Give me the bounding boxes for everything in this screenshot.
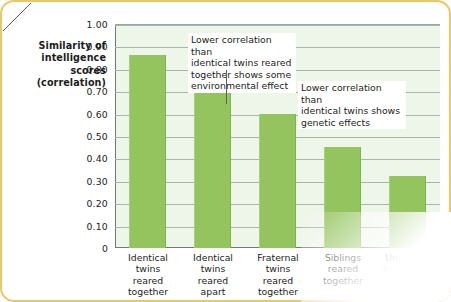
bar	[324, 147, 361, 248]
category-label-line: together	[113, 286, 183, 297]
y-axis-tick-label: 0.20	[68, 198, 108, 209]
x-axis-category-label: Siblingsrearedtogether	[308, 252, 378, 286]
category-label-line: together	[243, 286, 313, 297]
category-label-line: reared	[373, 275, 443, 286]
category-label-line: reared	[308, 263, 378, 274]
bar	[129, 55, 166, 248]
annotation-line: environmental effect	[191, 80, 293, 92]
x-axis-category-label: Unrelatedindividualsrearedtogether	[373, 252, 443, 297]
category-label-line: Fraternal	[243, 252, 313, 263]
y-axis-tick-label: 0.40	[68, 153, 108, 164]
bar	[194, 87, 231, 248]
y-axis-tick-label: 0.10	[68, 220, 108, 231]
annotation-line: identical twins reared	[191, 57, 293, 69]
annotation-line: Lower correlation than	[191, 34, 293, 57]
annotation-leader-line-1	[226, 70, 227, 104]
annotation-genetic-effects: Lower correlation thanidentical twins sh…	[298, 81, 406, 129]
x-axis-category-label: Identicaltwinsrearedtogether	[113, 252, 183, 297]
category-label-line: reared	[113, 275, 183, 286]
gridline	[115, 25, 440, 26]
category-label-line: reared	[243, 275, 313, 286]
category-label-line: Identical	[113, 252, 183, 263]
category-label-line: individuals	[373, 263, 443, 274]
annotation-line: Lower correlation than	[301, 82, 403, 105]
y-axis-tick-label: 0.60	[68, 108, 108, 119]
annotation-line: together shows some	[191, 69, 293, 81]
category-label-line: Siblings	[308, 252, 378, 263]
category-label-line: Unrelated	[373, 252, 443, 263]
x-axis-category-label: Identicaltwinsrearedapart	[178, 252, 248, 297]
x-axis-category-label: Fraternaltwinsrearedtogether	[243, 252, 313, 297]
y-axis-tick-label: 0.30	[68, 175, 108, 186]
bar	[259, 114, 296, 248]
category-label-line: twins	[113, 263, 183, 274]
annotation-line: identical twins shows	[301, 105, 403, 117]
y-axis-tick-label: 0.70	[68, 86, 108, 97]
bar	[389, 176, 426, 248]
category-label-line: twins	[243, 263, 313, 274]
annotation-environmental-effect: Lower correlation thanidentical twins re…	[188, 33, 296, 93]
category-label-line: reared	[178, 275, 248, 286]
category-label-line: twins	[178, 263, 248, 274]
y-axis-tick-label: 0.50	[68, 131, 108, 142]
category-label-line: together	[308, 275, 378, 286]
annotation-line: genetic effects	[301, 117, 403, 129]
y-axis-tick-label: 0	[68, 243, 108, 254]
y-axis-tick-label: 1.00	[68, 19, 108, 30]
category-label-line: apart	[178, 286, 248, 297]
annotation-leader-line-2	[2, 2, 32, 32]
category-label-line: Identical	[178, 252, 248, 263]
chart-card: Similarity of intelligence scores (corre…	[0, 0, 451, 302]
category-label-line: together	[373, 286, 443, 297]
y-axis-tick-label: 0.90	[68, 41, 108, 52]
y-axis-tick-label: 0.80	[68, 63, 108, 74]
